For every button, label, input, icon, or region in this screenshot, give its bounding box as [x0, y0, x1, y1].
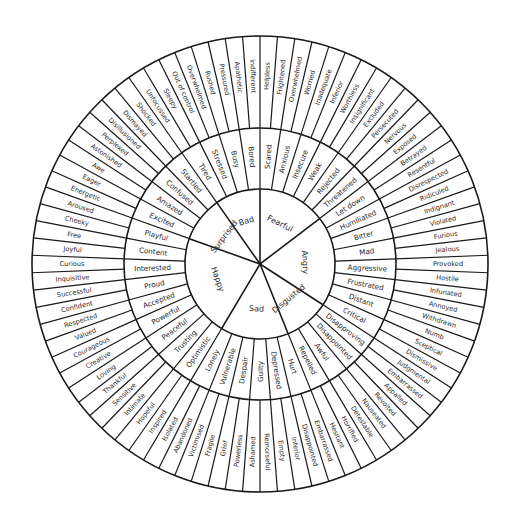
middle-emotion-label: Busy: [229, 150, 242, 170]
outer-emotion-label: Ashamed: [248, 436, 257, 467]
outer-emotion-label: Hostile: [436, 274, 459, 284]
emotion-wheel-svg: IndifferentApatheticBoredPressuredRushed…: [0, 0, 521, 517]
outer-emotion-label: Inquisitive: [55, 273, 89, 284]
outer-emotion-label: Remorseful: [262, 433, 271, 471]
middle-emotion-label: Lonely: [203, 347, 222, 373]
outer-divider: [396, 269, 488, 273]
middle-emotion-label: Aggressive: [348, 263, 388, 274]
middle-emotion-label: Despair: [237, 356, 250, 385]
outer-emotion-label: Overwhelmed: [287, 56, 304, 103]
outer-emotion-label: Powerless: [233, 434, 245, 468]
middle-emotion-label: Guilty: [256, 360, 265, 382]
core-emotion-label: Sad: [249, 304, 265, 314]
middle-emotion-label: Weak: [306, 160, 324, 182]
middle-emotion-label: Bitter: [353, 229, 375, 243]
outer-emotion-label: Free: [67, 230, 82, 240]
outer-emotion-label: Infuriated: [429, 286, 462, 299]
middle-emotion-label: Excited: [148, 211, 176, 230]
middle-emotion-label: Frustrated: [347, 277, 385, 293]
core-emotion-label: Happy: [209, 266, 226, 294]
sector-dividers: [32, 36, 488, 492]
middle-emotion-label: Awful: [313, 341, 332, 362]
core-divider: [222, 264, 260, 328]
outer-emotion-label: Indifferent: [248, 59, 257, 94]
outer-emotion-label: Valued: [74, 326, 98, 342]
core-emotion-label: Angry: [300, 250, 310, 274]
middle-divider: [335, 273, 396, 280]
middle-emotion-label: Interested: [134, 263, 171, 273]
outer-emotion-label: Furious: [433, 229, 458, 241]
middle-emotion-label: Bored: [246, 146, 257, 168]
outer-emotion-label: Empty: [276, 440, 286, 462]
middle-emotion-label: Hurt: [286, 358, 299, 376]
outer-emotion-label: Indignant: [423, 199, 456, 216]
outer-emotion-label: Joyful: [62, 245, 82, 254]
middle-divider: [266, 339, 271, 400]
outer-emotion-label: Frightened: [276, 59, 288, 95]
outer-divider: [32, 269, 124, 273]
core-emotion-label: Disgusted: [270, 283, 307, 315]
core-emotion-label: Bad: [238, 214, 255, 227]
outer-emotion-label: Provoked: [433, 260, 463, 268]
outer-emotion-label: Grief: [219, 439, 230, 457]
outer-emotion-label: Aroused: [67, 199, 95, 215]
outer-emotion-label: Apathetic: [233, 61, 245, 94]
outer-divider: [396, 255, 488, 259]
core-emotion-label: Fearful: [266, 214, 295, 234]
outer-divider: [32, 255, 124, 259]
middle-divider: [335, 259, 396, 261]
middle-emotion-label: Scared: [263, 144, 274, 169]
middle-divider: [250, 339, 255, 400]
middle-divider: [125, 273, 186, 280]
middle-emotion-label: Content: [138, 246, 168, 258]
middle-divider: [124, 259, 185, 261]
emotion-wheel: IndifferentApatheticBoredPressuredRushed…: [0, 0, 521, 517]
outer-emotion-label: Inferior: [290, 436, 302, 461]
outer-emotion-label: Helpless: [263, 62, 272, 91]
core-emotion-label: Surprised: [209, 219, 239, 255]
outer-emotion-label: Eager: [81, 173, 102, 189]
middle-emotion-label: Proud: [144, 278, 166, 291]
outer-emotion-label: Jealous: [434, 245, 460, 255]
middle-emotion-label: Mad: [359, 246, 375, 257]
outer-emotion-label: Curious: [60, 260, 86, 268]
